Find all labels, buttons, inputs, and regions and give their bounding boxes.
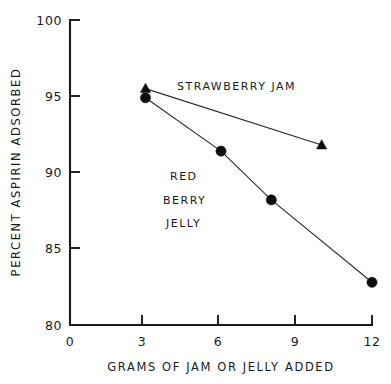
strawberry-jam-label: STRAWBERRY JAM bbox=[177, 80, 296, 93]
red-berry-jelly-label-red: RED bbox=[170, 170, 198, 183]
data-point bbox=[216, 146, 226, 156]
data-point bbox=[367, 277, 377, 287]
x-tick-label-12: 12 bbox=[363, 334, 380, 349]
red-berry-jelly-label-jelly: JELLY bbox=[165, 217, 201, 230]
data-point bbox=[266, 195, 276, 205]
series-strawberry-jam-markers bbox=[140, 83, 326, 149]
data-point bbox=[140, 83, 150, 92]
x-tick-label-9: 9 bbox=[291, 334, 300, 349]
aspirin-adsorption-line-chart: 100 95 90 85 80 0 3 6 9 12 GRAMS OF JAM … bbox=[0, 0, 391, 384]
axes-group bbox=[70, 20, 372, 325]
series-strawberry-jam bbox=[140, 83, 326, 149]
series-red-berry-jelly-markers bbox=[140, 93, 377, 288]
y-tick-labels: 100 95 90 85 80 bbox=[36, 13, 62, 333]
data-point bbox=[140, 93, 150, 103]
x-axis-title: GRAMS OF JAM OR JELLY ADDED bbox=[107, 360, 334, 374]
series-red-berry-jelly bbox=[140, 93, 377, 288]
y-tick-label-95: 95 bbox=[45, 89, 62, 104]
y-axis-title: PERCENT ASPIRIN ADSORBED bbox=[9, 68, 23, 277]
chart-page: 100 95 90 85 80 0 3 6 9 12 GRAMS OF JAM … bbox=[0, 0, 391, 384]
y-tick-label-100: 100 bbox=[36, 13, 62, 28]
red-berry-jelly-label-berry: BERRY bbox=[163, 194, 206, 207]
y-tick-label-80: 80 bbox=[45, 318, 62, 333]
x-tick-labels: 0 3 6 9 12 bbox=[66, 334, 381, 349]
axis-lines bbox=[70, 20, 372, 325]
x-tick-label-0: 0 bbox=[66, 334, 75, 349]
chart-annotations: STRAWBERRY JAM RED BERRY JELLY bbox=[163, 80, 296, 230]
y-tick-label-90: 90 bbox=[45, 165, 62, 180]
y-tick-label-85: 85 bbox=[45, 241, 62, 256]
x-tick-label-6: 6 bbox=[214, 334, 223, 349]
x-tick-label-3: 3 bbox=[138, 334, 147, 349]
